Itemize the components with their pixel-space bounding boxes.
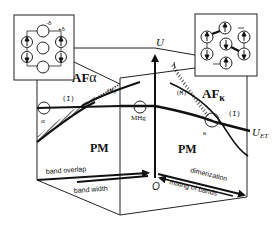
kappa-point-label: κ	[203, 129, 207, 137]
insulator-right-label: (I)	[228, 110, 241, 118]
pm-right-label: PM	[178, 142, 197, 156]
inset-right-lattice	[195, 14, 257, 76]
u-et-label: UET	[252, 126, 269, 140]
mhg-point-label: MHg	[131, 114, 146, 122]
af-kappa-label: AFκ	[202, 86, 225, 103]
mixing-of-bands-label: mixing of bands	[169, 178, 219, 198]
metal-left-label: (M)	[106, 87, 117, 94]
metal-right-label: (M)	[176, 89, 187, 96]
inset-left-lattice: -δ +δ	[14, 15, 74, 80]
plus-delta-label: +δ	[58, 26, 66, 32]
band-overlap-label: band overlap	[46, 165, 87, 176]
insulator-left-label: (I)	[62, 95, 75, 103]
minus-delta-label: -δ	[46, 20, 52, 26]
band-width-label: band width	[74, 185, 108, 194]
u-axis-label: U	[156, 36, 165, 48]
alpha-point-label: α	[41, 117, 45, 125]
pm-left-label: PM	[90, 141, 109, 155]
origin-label: O	[152, 181, 160, 192]
dimerization-label: dimerization	[190, 166, 228, 182]
af-alpha-label: AFα	[72, 70, 97, 85]
phase-diagram: -δ +δ	[0, 0, 279, 227]
